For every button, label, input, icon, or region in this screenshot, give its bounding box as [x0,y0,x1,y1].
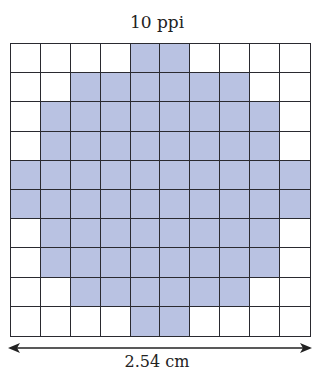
pixel-cell-filled [220,102,250,131]
width-dimension-label: 2.54 cm [0,352,314,371]
pixel-cell-empty [280,219,310,248]
pixel-cell-filled [160,307,190,336]
pixel-cell-empty [220,307,250,336]
pixel-cell-empty [250,278,280,307]
pixel-cell-filled [41,102,71,131]
pixel-cell-filled [131,161,161,190]
pixel-cell-filled [220,190,250,219]
pixel-cell-filled [11,161,41,190]
pixel-cell-filled [71,219,101,248]
pixel-cell-filled [250,190,280,219]
pixel-cell-empty [101,44,131,73]
pixel-cell-empty [280,102,310,131]
pixel-cell-filled [160,102,190,131]
pixel-cell-filled [41,132,71,161]
pixel-cell-empty [101,307,131,336]
pixel-cell-filled [160,190,190,219]
pixel-cell-empty [190,44,220,73]
pixel-cell-filled [160,219,190,248]
pixel-cell-filled [160,161,190,190]
pixel-cell-filled [131,278,161,307]
pixel-cell-empty [11,44,41,73]
pixel-cell-empty [280,132,310,161]
pixel-cell-filled [101,248,131,277]
pixel-cell-empty [280,44,310,73]
pixel-cell-filled [41,190,71,219]
pixel-cell-filled [190,278,220,307]
pixel-cell-filled [131,219,161,248]
pixel-cell-empty [250,307,280,336]
pixel-cell-filled [190,248,220,277]
pixel-cell-filled [160,248,190,277]
pixel-cell-empty [220,44,250,73]
pixel-cell-filled [71,278,101,307]
pixel-cell-empty [11,102,41,131]
pixel-cell-empty [190,307,220,336]
pixel-cell-empty [11,73,41,102]
pixel-cell-filled [41,248,71,277]
pixel-cell-filled [101,73,131,102]
pixel-cell-filled [160,44,190,73]
pixel-cell-empty [280,307,310,336]
pixel-grid [10,43,311,337]
pixel-cell-filled [101,219,131,248]
resolution-title: 10 ppi [0,12,314,32]
pixel-cell-filled [101,190,131,219]
pixel-cell-filled [280,161,310,190]
pixel-cell-filled [131,248,161,277]
pixel-cell-empty [250,73,280,102]
pixel-cell-filled [131,102,161,131]
pixel-cell-empty [11,132,41,161]
pixel-cell-filled [250,219,280,248]
pixel-cell-empty [11,219,41,248]
pixel-cell-filled [190,190,220,219]
pixel-cell-filled [250,102,280,131]
pixel-cell-filled [250,161,280,190]
pixel-cell-filled [190,219,220,248]
pixel-cell-filled [11,190,41,219]
pixel-cell-empty [41,278,71,307]
pixel-cell-filled [220,132,250,161]
pixel-cell-empty [250,44,280,73]
pixel-cell-filled [250,132,280,161]
pixel-cell-filled [101,161,131,190]
pixel-cell-filled [220,278,250,307]
pixel-cell-filled [190,102,220,131]
pixel-cell-empty [71,307,101,336]
pixel-cell-filled [131,190,161,219]
pixel-cell-filled [220,248,250,277]
pixel-cell-filled [280,190,310,219]
pixel-cell-empty [41,44,71,73]
pixel-cell-filled [101,132,131,161]
pixel-cell-filled [220,161,250,190]
pixel-cell-filled [71,161,101,190]
pixel-cell-filled [220,73,250,102]
pixel-cell-filled [71,73,101,102]
pixel-cell-empty [280,248,310,277]
pixel-cell-filled [190,73,220,102]
pixel-cell-filled [71,132,101,161]
pixel-cell-filled [71,248,101,277]
pixel-cell-filled [131,73,161,102]
pixel-cell-empty [11,278,41,307]
pixel-cell-filled [101,278,131,307]
pixel-cell-filled [190,161,220,190]
pixel-cell-filled [71,190,101,219]
pixel-cell-empty [41,307,71,336]
pixel-cell-empty [11,307,41,336]
pixel-cell-filled [160,73,190,102]
pixel-cell-empty [280,73,310,102]
pixel-cell-filled [220,219,250,248]
pixel-cell-empty [11,248,41,277]
pixel-cell-filled [41,161,71,190]
pixel-cell-empty [280,278,310,307]
pixel-cell-filled [250,248,280,277]
pixel-cell-filled [131,307,161,336]
pixel-cell-filled [160,132,190,161]
pixel-cell-filled [41,219,71,248]
pixel-cell-filled [131,44,161,73]
pixel-cell-filled [101,102,131,131]
pixel-cell-empty [41,73,71,102]
pixel-cell-empty [71,44,101,73]
pixel-cell-filled [190,132,220,161]
